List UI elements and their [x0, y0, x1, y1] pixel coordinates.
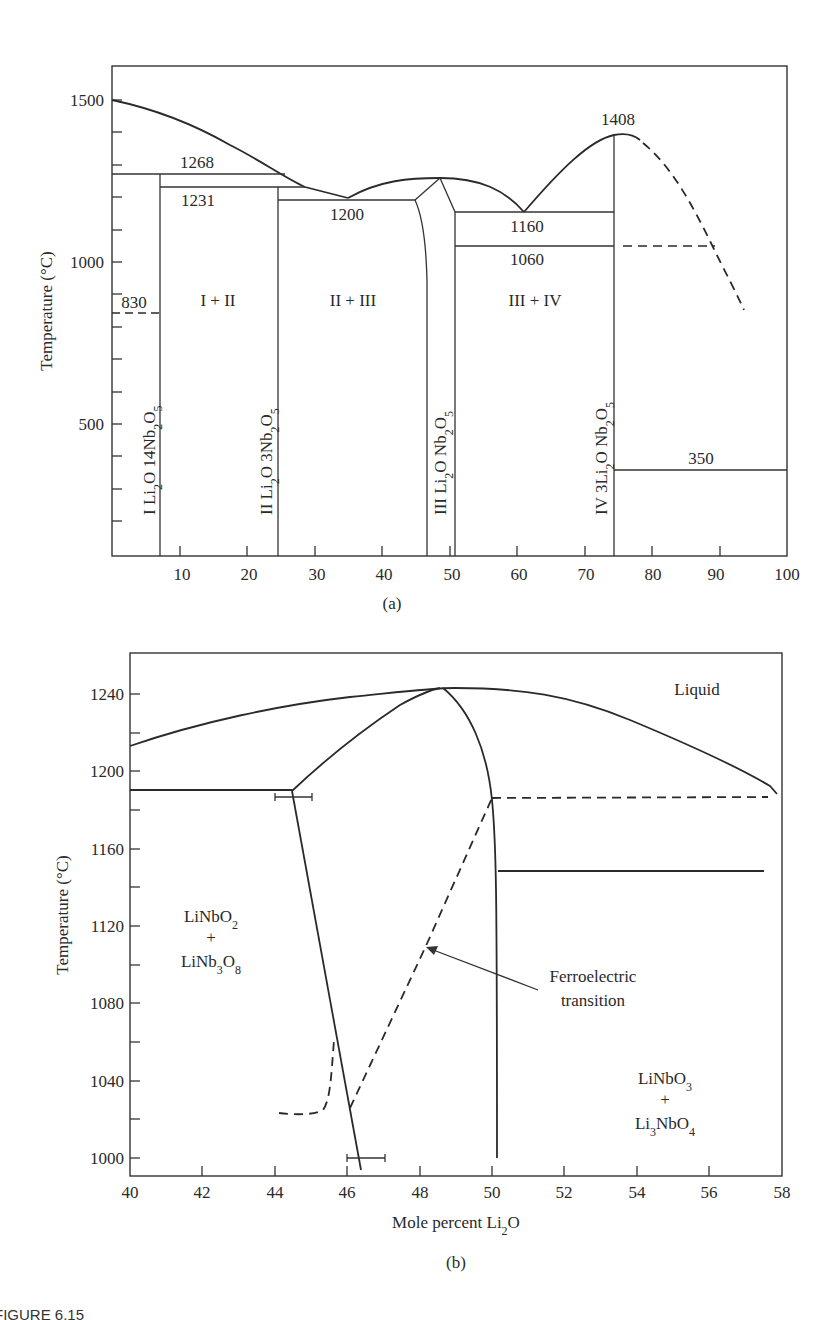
panel-a-label-1408: 1408 — [601, 110, 635, 129]
figure-caption: FIGURE 6.15 — [0, 1306, 84, 1320]
phase-diagram-figure: 1500 1000 500 10 20 30 40 50 60 70 80 90… — [0, 0, 831, 1320]
svg-text:50: 50 — [484, 1183, 501, 1202]
svg-text:40: 40 — [122, 1183, 139, 1202]
svg-text:1040: 1040 — [90, 1072, 124, 1091]
svg-text:58: 58 — [774, 1183, 791, 1202]
svg-text:1000: 1000 — [90, 1149, 124, 1168]
panel-b-x-ticks — [202, 1166, 709, 1176]
panel-b-x-tick-labels: 40 42 44 46 48 50 52 54 56 58 — [122, 1183, 791, 1202]
panel-a-region-II-III: II + III — [330, 291, 377, 310]
svg-text:44: 44 — [267, 1183, 285, 1202]
panel-b-y-tick-labels: 1240 1200 1160 1120 1080 1040 1000 — [90, 685, 124, 1168]
panel-a-compound-III-top-left — [415, 178, 440, 200]
svg-text:40: 40 — [376, 565, 393, 584]
panel-a-compound-IV-label: IV 3Li2O Nb2O5 — [592, 402, 617, 515]
panel-a-ytick-1000: 1000 — [70, 253, 104, 272]
panel-a-region-I-II: I + II — [200, 291, 235, 310]
panel-b-x-axis-title: Mole percent Li2O — [392, 1213, 520, 1238]
panel-a-liquidus-right — [524, 134, 640, 212]
panel-b-region-right: LiNbO3 + Li3NbO4 — [635, 1069, 695, 1139]
panel-b-solidus-left — [292, 688, 440, 791]
panel-a-label: (a) — [383, 594, 402, 613]
svg-text:42: 42 — [194, 1183, 211, 1202]
svg-text:48: 48 — [412, 1183, 429, 1202]
svg-text:Li3NbO4: Li3NbO4 — [635, 1114, 695, 1139]
panel-b-solidus-right — [443, 688, 497, 1158]
panel-b-phase-boundary-left — [292, 791, 361, 1170]
panel-a-x-tick-labels: 10 20 30 40 50 60 70 80 90 100 — [174, 565, 800, 584]
svg-text:80: 80 — [645, 565, 662, 584]
svg-text:30: 30 — [309, 565, 326, 584]
panel-b-region-liquid: Liquid — [674, 680, 720, 699]
panel-a-ytick-500: 500 — [79, 415, 105, 434]
svg-text:LiNb3O8: LiNb3O8 — [181, 952, 241, 977]
panel-a-label-1231: 1231 — [181, 191, 215, 210]
svg-text:54: 54 — [629, 1183, 647, 1202]
svg-text:+: + — [660, 1090, 670, 1109]
svg-text:20: 20 — [241, 565, 258, 584]
svg-text:60: 60 — [511, 565, 528, 584]
svg-text:10: 10 — [174, 565, 191, 584]
panel-a-label-1268: 1268 — [180, 153, 214, 172]
panel-a-label-830: 830 — [121, 293, 147, 312]
panel-b-liquidus — [130, 688, 777, 794]
panel-a-label-1060: 1060 — [510, 250, 544, 269]
panel-b-annotation-arrow — [428, 948, 538, 990]
panel-a: 1500 1000 500 10 20 30 40 50 60 70 80 90… — [37, 66, 800, 613]
panel-a-liquidus-dome — [348, 178, 524, 212]
panel-a-liquidus-extrapolated — [643, 143, 744, 310]
panel-b-ferroelectric-lower — [279, 1040, 334, 1114]
panel-b-y-ticks — [130, 694, 140, 1158]
panel-b-error-bar-lower — [347, 1154, 385, 1162]
svg-text:1200: 1200 — [90, 762, 124, 781]
panel-b-label: (b) — [446, 1253, 466, 1272]
panel-a-region-III-IV: III + IV — [508, 291, 562, 310]
panel-b-region-left: LiNbO2 + LiNb3O8 — [181, 907, 241, 977]
panel-a-label-350: 350 — [688, 449, 714, 468]
svg-text:90: 90 — [708, 565, 725, 584]
panel-b: 1240 1200 1160 1120 1080 1040 1000 40 42… — [53, 653, 791, 1272]
svg-text:100: 100 — [774, 565, 800, 584]
svg-text:52: 52 — [556, 1183, 573, 1202]
svg-text:1080: 1080 — [90, 994, 124, 1013]
panel-b-ferroelectric-transition — [350, 798, 492, 1108]
panel-a-compound-III-label: III Li2O Nb2O5 — [431, 411, 456, 515]
svg-text:46: 46 — [339, 1183, 356, 1202]
panel-a-compound-I-label: I Li2O 14Nb2O5 — [140, 405, 165, 515]
svg-text:1240: 1240 — [90, 685, 124, 704]
panel-a-x-ticks — [180, 546, 720, 556]
panel-a-ytick-1500: 1500 — [70, 91, 104, 110]
svg-text:1120: 1120 — [91, 917, 124, 936]
panel-a-y-axis-title: Temperature (°C) — [37, 251, 56, 370]
panel-a-label-1160: 1160 — [510, 217, 543, 236]
panel-a-liquidus-left — [112, 100, 348, 198]
panel-b-annotation-ferro-1: Ferroelectric — [550, 967, 637, 986]
panel-b-annotation-ferro-2: transition — [561, 991, 626, 1010]
panel-b-ferroelectric-upper — [492, 797, 768, 798]
svg-text:1160: 1160 — [91, 840, 124, 859]
svg-text:56: 56 — [701, 1183, 718, 1202]
panel-a-label-1200: 1200 — [330, 205, 364, 224]
svg-text:70: 70 — [578, 565, 595, 584]
panel-a-compound-III-left-boundary — [415, 200, 427, 556]
svg-text:+: + — [206, 928, 216, 947]
panel-b-y-axis-title: Temperature (°C) — [53, 855, 72, 974]
svg-text:50: 50 — [444, 565, 461, 584]
